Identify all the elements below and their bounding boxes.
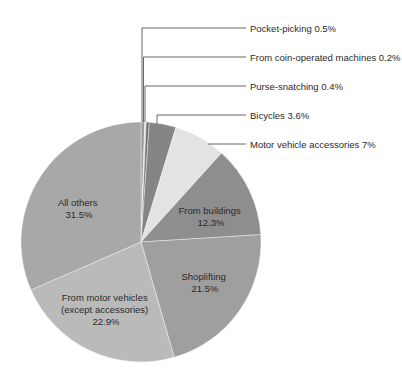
leader-bicycles (157, 115, 246, 124)
leader-pocket-picking (142, 28, 246, 122)
label-bicycles: Bicycles 3.6% (250, 110, 310, 121)
leader-purse-snatching (145, 86, 246, 122)
label-coin-operated-machines: From coin-operated machines 0.2% (250, 52, 401, 63)
callout-labels: Pocket-picking 0.5% From coin-operated m… (250, 23, 401, 150)
label-purse-snatching: Purse-snatching 0.4% (250, 81, 343, 92)
pie-chart: Pocket-picking 0.5% From coin-operated m… (0, 0, 402, 377)
label-motor-vehicle-accessories: Motor vehicle accessories 7% (250, 139, 376, 150)
pie-slices (21, 122, 261, 362)
leader-coin-operated (144, 57, 247, 122)
label-pocket-picking: Pocket-picking 0.5% (250, 23, 337, 34)
